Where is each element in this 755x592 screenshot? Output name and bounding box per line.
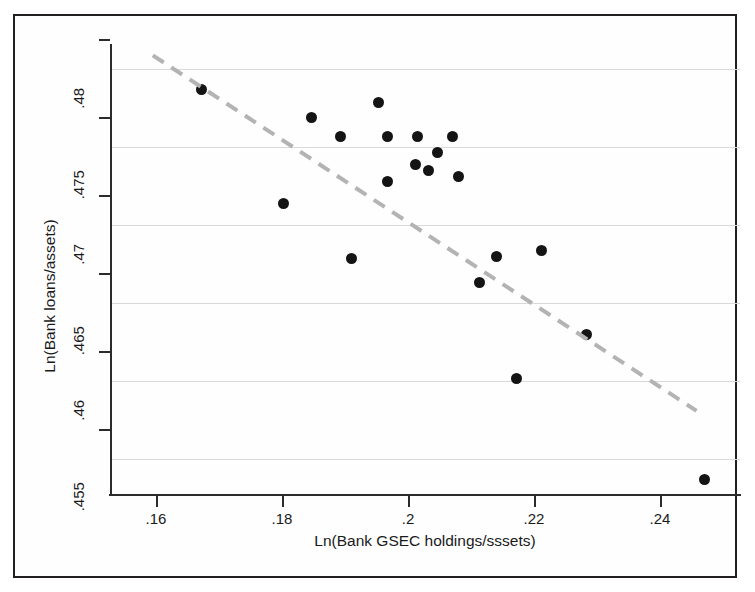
- x-tick-mark: [156, 496, 158, 507]
- gridline-y: [110, 459, 740, 460]
- scatter-point: [423, 165, 434, 176]
- y-tick-mark: [99, 273, 110, 275]
- scatter-point: [412, 131, 423, 142]
- scatter-point: [346, 253, 357, 264]
- scatter-point: [491, 251, 502, 262]
- x-tick-label: .24: [650, 510, 671, 527]
- gridline-y: [110, 381, 740, 382]
- gridline-y: [110, 303, 740, 304]
- x-tick-label: .2: [402, 510, 415, 527]
- x-axis-line: [109, 494, 741, 496]
- trend-line-segment: [153, 55, 697, 410]
- plot-area: [110, 46, 740, 495]
- y-tick-label: .47: [70, 244, 87, 265]
- y-tick-mark: [99, 195, 110, 197]
- x-tick-mark: [534, 496, 536, 507]
- gridline-y: [110, 225, 740, 226]
- scatter-point: [699, 474, 710, 485]
- scatter-point: [581, 329, 592, 340]
- x-axis-title: Ln(Bank GSEC holdings/sssets): [110, 532, 740, 550]
- scatter-point: [196, 84, 207, 95]
- y-tick-label: .455: [70, 482, 87, 511]
- x-tick-mark: [660, 496, 662, 507]
- scatter-point: [278, 198, 289, 209]
- y-tick-mark: [99, 429, 110, 431]
- y-axis-title: Ln(Bank loans/assets): [41, 219, 59, 372]
- y-tick-label: .48: [70, 88, 87, 109]
- scatter-point: [474, 277, 485, 288]
- y-tick-mark: [99, 39, 110, 41]
- y-axis-line: [110, 44, 112, 496]
- x-tick-mark: [282, 496, 284, 507]
- scatter-point: [536, 245, 547, 256]
- scatter-point: [511, 373, 522, 384]
- scatter-point: [447, 131, 458, 142]
- x-tick-label: .18: [272, 510, 293, 527]
- y-tick-label: .465: [70, 326, 87, 355]
- y-tick-label: .46: [70, 400, 87, 421]
- y-tick-mark: [99, 117, 110, 119]
- figure-frame: .455.46.465.47.475.48 .16.18.2.22.24 Ln(…: [13, 14, 737, 578]
- gridline-y: [110, 147, 740, 148]
- gridline-y: [110, 69, 740, 70]
- y-tick-label: .475: [70, 170, 87, 199]
- x-tick-label: .16: [146, 510, 167, 527]
- x-tick-mark: [408, 496, 410, 507]
- scatter-point: [373, 97, 384, 108]
- scatter-point: [382, 131, 393, 142]
- scatter-point: [335, 131, 346, 142]
- scatter-point: [382, 176, 393, 187]
- trend-line: [110, 46, 740, 495]
- y-tick-mark: [99, 351, 110, 353]
- scatter-point: [306, 112, 317, 123]
- scatter-point: [432, 147, 443, 158]
- x-tick-label: .22: [524, 510, 545, 527]
- scatter-point: [410, 159, 421, 170]
- scatter-point: [453, 171, 464, 182]
